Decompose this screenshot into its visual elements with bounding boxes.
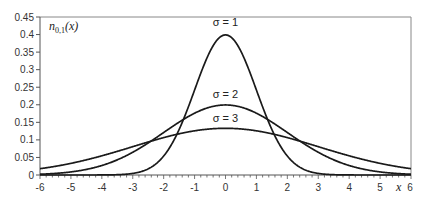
x-tick-label: 6 bbox=[407, 182, 413, 193]
y-tick-label: 0.35 bbox=[15, 47, 35, 58]
y-tick-label: 0.15 bbox=[15, 117, 35, 128]
y-tick-label: 0.3 bbox=[20, 64, 34, 75]
normal-density-chart: 00.050.10.150.20.250.30.350.40.45 -6-5-4… bbox=[0, 0, 425, 203]
y-tick-label: 0.4 bbox=[20, 29, 34, 40]
sigma-annotation: σ = 2 bbox=[213, 88, 238, 100]
x-tick-label: -3 bbox=[128, 182, 137, 193]
y-axis: 00.050.10.150.20.250.30.350.40.45 bbox=[15, 12, 40, 181]
y-tick-label: 0.1 bbox=[20, 134, 34, 145]
y-tick-label: 0.25 bbox=[15, 82, 35, 93]
density-curves bbox=[40, 35, 411, 175]
x-tick-label: -2 bbox=[159, 182, 168, 193]
x-tick-label: 2 bbox=[285, 182, 291, 193]
x-tick-label: 0 bbox=[223, 182, 229, 193]
x-axis-label: x bbox=[395, 180, 402, 194]
y-axis-label: n0,1(x) bbox=[49, 19, 78, 35]
y-tick-label: 0.45 bbox=[15, 12, 35, 23]
x-tick-label: -5 bbox=[66, 182, 75, 193]
x-tick-label: -4 bbox=[97, 182, 106, 193]
y-tick-label: 0 bbox=[28, 170, 34, 181]
x-tick-label: 1 bbox=[254, 182, 260, 193]
curve-sigma-3 bbox=[40, 128, 411, 168]
x-axis: -6-5-4-3-2-10123456 bbox=[36, 175, 414, 193]
sigma-annotation: σ = 3 bbox=[213, 112, 238, 124]
y-tick-label: 0.05 bbox=[15, 152, 35, 163]
x-tick-label: -6 bbox=[36, 182, 45, 193]
x-tick-label: 3 bbox=[315, 182, 321, 193]
x-tick-label: 5 bbox=[377, 182, 383, 193]
sigma-annotation: σ = 1 bbox=[213, 16, 238, 28]
x-tick-label: 4 bbox=[346, 182, 352, 193]
x-tick-label: -1 bbox=[190, 182, 199, 193]
curve-annotations: σ = 1σ = 2σ = 3 bbox=[213, 16, 238, 124]
y-tick-label: 0.2 bbox=[20, 99, 34, 110]
